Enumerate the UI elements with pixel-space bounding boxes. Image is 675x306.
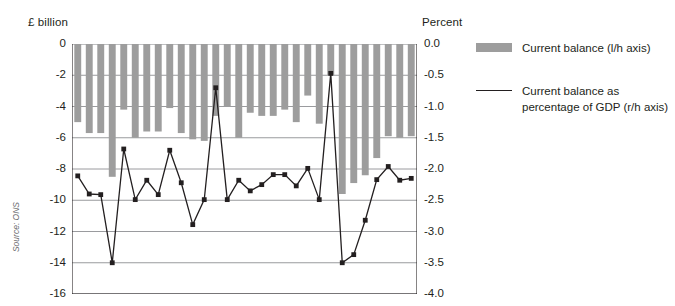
chart-legend: Current balance (l/h axis)Current balanc…: [476, 40, 672, 142]
left-tick-label: 0: [20, 38, 66, 50]
left-tick-label: -12: [20, 226, 66, 238]
legend-label: Current balance (l/h axis): [522, 40, 650, 57]
right-tick-label: -0.5: [424, 69, 470, 81]
right-tick-label: -1.5: [424, 132, 470, 144]
chart-figure: £ billion Percent Source: ONS 0-2-4-6-8-…: [0, 0, 675, 306]
bar-series: [74, 44, 414, 194]
legend-item: Current balance (l/h axis): [476, 40, 672, 57]
plot-svg: [72, 44, 417, 294]
left-tick-label: -8: [20, 163, 66, 175]
legend-swatch: [476, 83, 522, 91]
left-tick-label: -4: [20, 101, 66, 113]
legend-label-line: Current balance as: [522, 83, 668, 100]
legend-bar-swatch-icon: [476, 43, 512, 52]
right-tick-label: 0.0: [424, 38, 470, 50]
legend-item: Current balance aspercentage of GDP (r/h…: [476, 83, 672, 116]
legend-label-line: percentage of GDP (r/h axis): [522, 99, 668, 116]
right-tick-label: -3.5: [424, 257, 470, 269]
left-tick-label: -6: [20, 132, 66, 144]
legend-label-line: Current balance (l/h axis): [522, 40, 650, 57]
left-tick-label: -16: [20, 288, 66, 300]
legend-line-swatch-icon: [476, 90, 512, 91]
plot-area: [72, 44, 417, 294]
legend-swatch: [476, 40, 522, 52]
legend-label: Current balance aspercentage of GDP (r/h…: [522, 83, 668, 116]
right-tick-label: -4.0: [424, 288, 470, 300]
left-axis-caption: £ billion: [28, 16, 68, 28]
left-tick-label: -2: [20, 69, 66, 81]
right-tick-label: -1.0: [424, 101, 470, 113]
right-tick-label: -2.0: [424, 163, 470, 175]
left-tick-label: -10: [20, 194, 66, 206]
right-axis-caption: Percent: [422, 16, 462, 28]
right-tick-label: -3.0: [424, 226, 470, 238]
right-tick-label: -2.5: [424, 194, 470, 206]
left-tick-label: -14: [20, 257, 66, 269]
